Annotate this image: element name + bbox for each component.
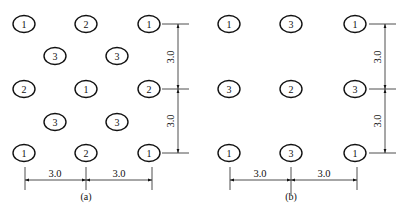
- diagram-a: 1213321233121 3.0 3.0 3.0 3.0 (a): [13, 16, 189, 204]
- vertical-dim-label: 3.0: [165, 50, 176, 63]
- node-circle: 1: [344, 145, 366, 162]
- caption-a: (a): [80, 191, 91, 203]
- node-label: 1: [227, 148, 232, 159]
- vertical-dimension-a: 3.0 3.0: [162, 24, 189, 153]
- node-label: 2: [22, 84, 27, 95]
- vertical-dim-label: 3.0: [372, 114, 383, 127]
- vertical-dim-label: 3.0: [165, 114, 176, 127]
- horizontal-dim-label: 3.0: [317, 168, 330, 179]
- node-label: 3: [53, 51, 58, 62]
- node-label: 1: [84, 84, 89, 95]
- node-circle: 1: [138, 16, 160, 33]
- node-label: 1: [147, 148, 152, 159]
- node-circle: 3: [280, 16, 302, 33]
- node-label: 3: [53, 117, 58, 128]
- node-circle: 1: [13, 145, 35, 162]
- node-circle: 1: [13, 16, 35, 33]
- node-circle: 1: [138, 145, 160, 162]
- node-label: 3: [289, 148, 294, 159]
- node-label: 3: [289, 19, 294, 30]
- node-label: 3: [227, 84, 232, 95]
- node-label: 2: [147, 84, 152, 95]
- horizontal-dim-label: 3.0: [112, 168, 125, 179]
- nodes-a: 1213321233121: [13, 16, 160, 162]
- node-circle: 1: [218, 16, 240, 33]
- node-circle: 2: [138, 81, 160, 98]
- node-label: 1: [353, 148, 358, 159]
- node-label: 2: [84, 148, 89, 159]
- node-label: 1: [22, 148, 27, 159]
- node-label: 3: [115, 51, 120, 62]
- node-circle: 3: [106, 48, 128, 65]
- vertical-dim-label: 3.0: [372, 50, 383, 63]
- node-label: 3: [115, 117, 120, 128]
- node-circle: 2: [13, 81, 35, 98]
- diagram-b: 131323131 3.0 3.0 3.0 3.0 (b): [218, 16, 396, 204]
- node-circle: 2: [75, 16, 97, 33]
- node-circle: 1: [218, 145, 240, 162]
- node-circle: 3: [218, 81, 240, 98]
- node-circle: 3: [344, 81, 366, 98]
- node-circle: 2: [75, 145, 97, 162]
- node-label: 2: [289, 84, 294, 95]
- node-circle: 1: [75, 81, 97, 98]
- node-circle: 3: [280, 145, 302, 162]
- node-label: 1: [22, 19, 27, 30]
- node-circle: 3: [106, 114, 128, 131]
- vertical-dimension-b: 3.0 3.0: [369, 24, 396, 153]
- node-label: 3: [353, 84, 358, 95]
- node-label: 2: [84, 19, 89, 30]
- node-circle: 1: [344, 16, 366, 33]
- node-label: 1: [147, 19, 152, 30]
- horizontal-dim-label: 3.0: [48, 168, 61, 179]
- node-circle: 3: [44, 114, 66, 131]
- caption-b: (b): [285, 191, 297, 203]
- horizontal-dimension-a: 3.0 3.0: [25, 167, 152, 190]
- node-circle: 2: [280, 81, 302, 98]
- node-label: 1: [227, 19, 232, 30]
- horizontal-dim-label: 3.0: [253, 168, 266, 179]
- nodes-b: 131323131: [218, 16, 366, 162]
- node-circle: 3: [44, 48, 66, 65]
- spacing-diagram: 1213321233121 3.0 3.0 3.0 3.0 (a) 131323…: [0, 0, 403, 214]
- node-label: 1: [353, 19, 358, 30]
